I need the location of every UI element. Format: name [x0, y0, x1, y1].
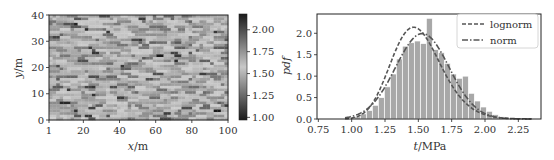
heatmap-cell [92, 65, 96, 68]
heatmap-cell [85, 52, 89, 55]
heatmap-cell [171, 36, 175, 39]
heatmap-cell [63, 60, 67, 63]
heatmap-cell [67, 20, 71, 23]
heatmap-cell [74, 78, 78, 81]
heatmap-cell [189, 115, 193, 118]
histogram-bar [426, 18, 432, 119]
heatmap-cell [189, 62, 193, 65]
heatmap-cell [121, 73, 125, 76]
heatmap-cell [117, 78, 121, 81]
heatmap-cell [110, 107, 114, 110]
heatmap-cell [221, 73, 225, 76]
heatmap-cell [49, 23, 53, 26]
heatmap-cell [60, 41, 64, 44]
heatmap-cell [106, 31, 110, 34]
heatmap-cell [121, 28, 125, 31]
heatmap-cell [113, 73, 117, 76]
heatmap-cell [110, 47, 114, 50]
heatmap-cell [103, 68, 107, 71]
heatmap-cell [131, 78, 135, 81]
heatmap-cell [99, 54, 103, 57]
heatmap-cell [178, 44, 182, 47]
heatmap-cell [99, 33, 103, 36]
heatmap-cell [189, 18, 193, 21]
heatmap-cell [221, 33, 225, 36]
heatmap-cell [96, 91, 100, 94]
histogram-x-label: t/MPa [414, 140, 447, 153]
heatmap-cell [99, 102, 103, 105]
heatmap-cell [192, 57, 196, 60]
heatmap-cell [78, 28, 82, 31]
heatmap-cell [56, 73, 60, 76]
heatmap-cell [192, 49, 196, 52]
heatmap-cell [189, 41, 193, 44]
heatmap-cell [142, 78, 146, 81]
heatmap-cell [178, 110, 182, 113]
heatmap-cell [106, 54, 110, 57]
heatmap-cell [178, 96, 182, 99]
heatmap-cell [185, 91, 189, 94]
heatmap-cell [156, 115, 160, 118]
heatmap-cell [171, 73, 175, 76]
y-tick-label: 0.5 [296, 92, 312, 103]
heatmap-cell [192, 18, 196, 21]
heatmap-cell [81, 62, 85, 65]
heatmap-cell [146, 18, 150, 21]
heatmap-cell [142, 68, 146, 71]
heatmap-cell [178, 57, 182, 60]
heatmap-cell [149, 26, 153, 29]
heatmap-cell [78, 73, 82, 76]
heatmap-cell [199, 96, 203, 99]
heatmap-cell [142, 26, 146, 29]
heatmap-cell [121, 23, 125, 26]
heatmap-cell [207, 89, 211, 92]
heatmap-cell [63, 31, 67, 34]
heatmap-cell [139, 41, 143, 44]
heatmap-cell [63, 54, 67, 57]
heatmap-cell [192, 81, 196, 84]
heatmap-cell [110, 57, 114, 60]
heatmap-cell [53, 39, 57, 42]
heatmap-cell [139, 115, 143, 118]
heatmap-cell [103, 86, 107, 89]
heatmap-cell [171, 57, 175, 60]
heatmap-cell [117, 75, 121, 78]
heatmap-cell [142, 70, 146, 73]
heatmap-cell [139, 52, 143, 55]
heatmap-cell [78, 23, 82, 26]
heatmap-cell [67, 54, 71, 57]
heatmap-cell [153, 36, 157, 39]
heatmap-cell [217, 99, 221, 102]
heatmap-cell [131, 112, 135, 115]
heatmap-cell [99, 20, 103, 23]
heatmap-cell [221, 99, 225, 102]
heatmap-cell [171, 39, 175, 42]
heatmap-cell [192, 36, 196, 39]
heatmap-cell [217, 49, 221, 52]
heatmap-cell [146, 96, 150, 99]
heatmap-cell [192, 70, 196, 73]
heatmap-cell [207, 96, 211, 99]
heatmap-cell [74, 102, 78, 105]
heatmap-cell [189, 107, 193, 110]
heatmap-cell [189, 65, 193, 68]
heatmap-cell [181, 99, 185, 102]
heatmap-cell [181, 33, 185, 36]
heatmap-cell [196, 18, 200, 21]
heatmap-cell [164, 91, 168, 94]
heatmap-cell [88, 47, 92, 50]
heatmap-cell [149, 33, 153, 36]
heatmap-cell [178, 75, 182, 78]
heatmap-cell [167, 20, 171, 23]
heatmap-cell [70, 68, 74, 71]
heatmap-cell [92, 99, 96, 102]
heatmap-cell [207, 81, 211, 84]
heatmap-cell [85, 54, 89, 57]
heatmap-cell [53, 44, 57, 47]
heatmap-cell [74, 94, 78, 97]
heatmap-cell [146, 41, 150, 44]
heatmap-cell [164, 70, 168, 73]
heatmap-cell [174, 78, 178, 81]
heatmap-cell [56, 62, 60, 65]
heatmap-cell [174, 18, 178, 21]
